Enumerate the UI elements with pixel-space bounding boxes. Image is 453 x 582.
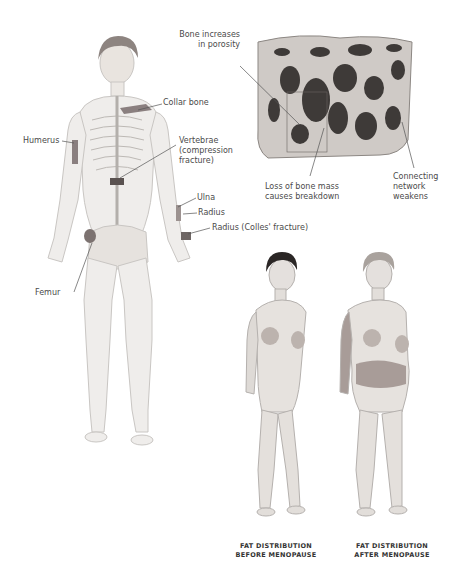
caption-before-menopause: FAT DISTRIBUTION BEFORE MENOPAUSE <box>228 542 324 559</box>
label-network-line2: network <box>393 182 438 192</box>
caption-after-menopause: FAT DISTRIBUTION AFTER MENOPAUSE <box>346 542 438 559</box>
caption-after-line2: AFTER MENOPAUSE <box>346 551 438 560</box>
label-radius-colles: Radius (Colles' fracture) <box>212 223 308 233</box>
ulna-radius-highlight <box>176 205 181 221</box>
porous-bone-block <box>258 36 412 158</box>
femur-highlight <box>84 229 96 243</box>
label-bone-loss: Loss of bone mass causes breakdown <box>265 182 339 202</box>
label-porosity-line1: Bone increases <box>176 30 240 40</box>
humerus-highlight <box>72 140 78 164</box>
figure-after-menopause <box>340 252 409 516</box>
label-vertebrae-line2: (compression <box>179 146 233 156</box>
label-bone-loss-line2: causes breakdown <box>265 192 339 202</box>
label-collar-bone: Collar bone <box>163 98 209 108</box>
illustration-layer <box>0 0 453 582</box>
label-vertebrae-line1: Vertebrae <box>179 136 233 146</box>
label-humerus: Humerus <box>23 136 59 146</box>
label-radius: Radius <box>198 208 225 218</box>
label-femur: Femur <box>35 288 60 298</box>
colles-fracture-highlight <box>181 232 191 240</box>
label-ulna: Ulna <box>197 193 215 203</box>
label-network-line1: Connecting <box>393 172 438 182</box>
vertebrae-highlight <box>110 178 124 185</box>
label-network-line3: weakens <box>393 192 438 202</box>
caption-after-line1: FAT DISTRIBUTION <box>346 542 438 551</box>
caption-before-line2: BEFORE MENOPAUSE <box>228 551 324 560</box>
caption-before-line1: FAT DISTRIBUTION <box>228 542 324 551</box>
label-porosity-line2: in porosity <box>176 40 240 50</box>
figure-before-menopause <box>246 252 306 516</box>
label-network: Connecting network weakens <box>393 172 438 202</box>
osteoporosis-diagram: Collar bone Humerus Vertebrae (compressi… <box>0 0 453 582</box>
label-porosity: Bone increases in porosity <box>176 30 240 50</box>
label-vertebrae-line3: fracture) <box>179 156 233 166</box>
label-vertebrae: Vertebrae (compression fracture) <box>179 136 233 166</box>
label-bone-loss-line1: Loss of bone mass <box>265 182 339 192</box>
